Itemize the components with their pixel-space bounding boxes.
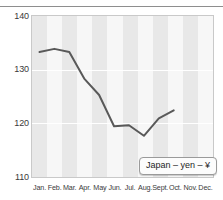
x-tick-label-apr: Apr. <box>79 183 91 192</box>
x-tick-label-feb: Feb. <box>48 183 62 192</box>
series-polyline-japan-yen <box>39 49 173 136</box>
x-tick-label-sept: Sept. <box>152 183 168 192</box>
y-tick-label-120: 120 <box>2 119 29 128</box>
top-divider-rule <box>0 6 223 7</box>
y-axis: 110120130140 <box>0 0 29 200</box>
x-tick-label-jan: Jan. <box>33 183 46 192</box>
plot-area <box>31 15 214 178</box>
x-tick-label-jul: Jul. <box>125 183 136 192</box>
x-tick-label-nov: Nov. <box>184 183 198 192</box>
legend-label: Japan – yen – ¥ <box>146 160 210 170</box>
x-tick-label-mar: Mar. <box>63 183 76 192</box>
x-axis: Jan.Feb.Mar.Apr.MayJun.Jul.Aug.Sept.Oct.… <box>31 183 214 195</box>
x-tick-label-dec: Dec. <box>198 183 212 192</box>
y-tick-label-110: 110 <box>2 173 29 182</box>
legend-japan-yen[interactable]: Japan – yen – ¥ <box>139 157 217 175</box>
data-line-series <box>32 16 213 177</box>
y-tick-label-130: 130 <box>2 65 29 74</box>
chart-figure: 110120130140 Jan.Feb.Mar.Apr.MayJun.Jul.… <box>0 0 223 200</box>
x-tick-label-aug: Aug. <box>138 183 152 192</box>
y-tick-label-140: 140 <box>2 12 29 21</box>
x-tick-label-jun: Jun. <box>108 183 121 192</box>
x-tick-label-oct: Oct. <box>169 183 182 192</box>
x-tick-label-may: May <box>93 183 106 192</box>
